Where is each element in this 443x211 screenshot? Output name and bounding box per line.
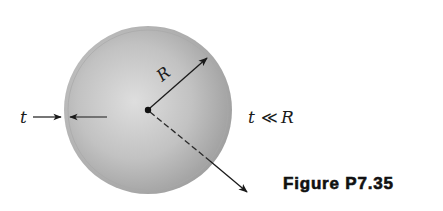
much-less-than-symbol: ≪ (261, 108, 278, 127)
normal-arrow (210, 161, 247, 192)
center-point (145, 107, 151, 113)
figure-canvas: t R t ≪ R Figure P7.35 (0, 0, 443, 211)
condition-t-label: t (248, 107, 255, 127)
thickness-label: t (20, 107, 27, 127)
thin-shell-condition: t ≪ R (248, 107, 294, 127)
condition-R-label: R (280, 107, 294, 127)
figure-caption: Figure P7.35 (283, 174, 394, 194)
